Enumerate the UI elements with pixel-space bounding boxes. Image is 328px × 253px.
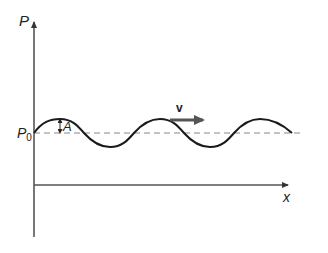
amplitude-label: A <box>62 119 72 134</box>
pressure-wave-diagram: P x P0 A v <box>0 0 328 253</box>
y-axis-label: P <box>19 12 29 29</box>
velocity-label: v <box>176 101 183 115</box>
pressure-wave-curve <box>34 119 292 147</box>
x-axis-label: x <box>282 189 291 205</box>
equilibrium-label: P0 <box>17 125 32 143</box>
equilibrium-label-subscript: 0 <box>26 132 32 143</box>
